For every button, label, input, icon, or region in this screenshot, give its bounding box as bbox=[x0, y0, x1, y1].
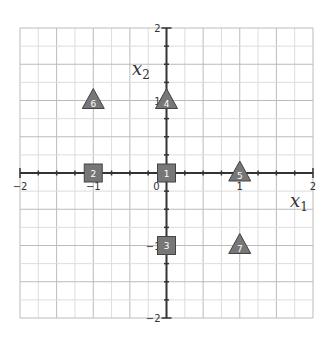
point-label: 2 bbox=[90, 169, 96, 179]
point-label: 1 bbox=[164, 169, 170, 179]
y-tick-label: 2 bbox=[154, 23, 160, 34]
x-tick-label: −1 bbox=[86, 181, 101, 192]
point-label: 6 bbox=[90, 99, 96, 109]
x-tick-label: −2 bbox=[13, 181, 28, 192]
x-tick-label: 2 bbox=[310, 181, 316, 192]
scatter-chart: −2−1012−2−112 1234567 x1 x2 bbox=[0, 0, 334, 339]
square-marker: 1 bbox=[158, 164, 176, 182]
triangle-marker: 7 bbox=[229, 234, 251, 254]
point-label: 3 bbox=[164, 241, 170, 251]
x-tick-label: 0 bbox=[153, 181, 159, 192]
square-marker: 3 bbox=[158, 237, 176, 255]
triangle-marker: 5 bbox=[229, 161, 251, 181]
y-tick-label: −2 bbox=[146, 313, 161, 324]
triangle-marker: 6 bbox=[82, 89, 104, 109]
x-axis-label: x1 bbox=[290, 190, 308, 214]
x-tick-label: 1 bbox=[237, 181, 243, 192]
y-axis-label: x2 bbox=[132, 58, 150, 82]
point-label: 4 bbox=[164, 99, 170, 109]
point-label: 5 bbox=[237, 171, 243, 181]
point-label: 7 bbox=[237, 244, 243, 254]
square-marker: 2 bbox=[84, 164, 102, 182]
